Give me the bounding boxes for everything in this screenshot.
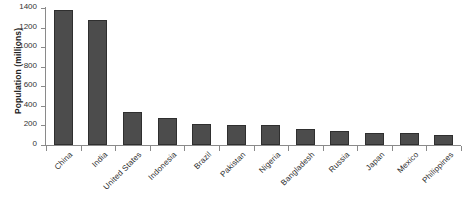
x-axis-tick-mark	[323, 146, 324, 151]
bar	[296, 129, 315, 145]
y-axis-tick-label: 1000	[19, 41, 37, 50]
bar	[158, 118, 177, 145]
x-axis-tick-mark	[46, 146, 47, 151]
x-axis-tick-mark	[81, 146, 82, 151]
bar-chart-figure: Population (millions) 020040060080010001…	[0, 0, 469, 203]
bar	[192, 124, 211, 145]
x-axis-tick-mark	[392, 146, 393, 151]
x-axis-tick-mark	[115, 146, 116, 151]
bar	[330, 131, 349, 145]
bar-series	[46, 8, 461, 145]
y-axis-tick-label: 0	[33, 139, 37, 148]
x-axis-tick-label: Russia	[327, 150, 351, 174]
x-axis-tick-label: Philippines	[420, 150, 455, 185]
y-axis-tick-label: 1400	[19, 2, 37, 11]
x-axis-tick-mark	[219, 146, 220, 151]
bar	[123, 112, 142, 145]
x-axis-tick-mark	[288, 146, 289, 151]
x-axis-tick-label: Japan	[364, 150, 386, 172]
x-axis-tick-mark	[184, 146, 185, 151]
x-axis-tick-mark	[426, 146, 427, 151]
y-axis-tick-label: 800	[24, 61, 37, 70]
bar	[365, 133, 384, 145]
x-axis-tick-mark	[461, 146, 462, 151]
bar	[227, 125, 246, 145]
y-axis-tick-label: 1200	[19, 22, 37, 31]
bar	[54, 10, 73, 145]
x-axis-tick-label: India	[90, 150, 109, 169]
bar	[261, 125, 280, 145]
x-axis-tick-mark	[357, 146, 358, 151]
x-axis-tick-label: Pakistan	[219, 150, 248, 179]
bar	[88, 20, 107, 145]
x-axis-tick-mark	[254, 146, 255, 151]
x-axis-tick-label: Brazil	[192, 150, 213, 171]
y-axis-tick-label: 600	[24, 80, 37, 89]
y-axis-tick-label: 400	[24, 100, 37, 109]
x-axis-tick-mark	[150, 146, 151, 151]
y-axis-tick-label: 200	[24, 119, 37, 128]
bar	[434, 135, 453, 145]
x-axis-tick-label: Nigeria	[257, 150, 282, 175]
bar	[400, 133, 419, 145]
x-axis-tick-label: Mexico	[396, 150, 421, 175]
x-axis-tick-label: China	[53, 150, 75, 172]
x-axis-tick-label: Indonesia	[147, 150, 179, 182]
x-axis-tick-label: Bangladesh	[279, 150, 316, 187]
